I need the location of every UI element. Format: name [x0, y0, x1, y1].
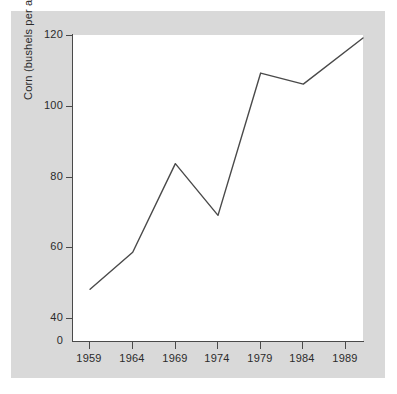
x-tick-1979 — [260, 342, 261, 349]
y-tick-label-40: 40 — [3, 311, 63, 323]
y-tick-label-80: 80 — [3, 170, 63, 182]
y-tick-label-0: 0 — [3, 334, 63, 346]
y-tick-60 — [66, 247, 73, 248]
x-tick-1989 — [345, 342, 346, 349]
y-tick-100 — [66, 106, 73, 107]
y-axis-title: Corn (bushels per acre) — [22, 0, 34, 100]
x-axis-line — [72, 341, 364, 342]
x-tick-1969 — [175, 342, 176, 349]
x-tick-1974 — [217, 342, 218, 349]
x-tick-label-1969: 1969 — [153, 352, 197, 364]
x-tick-label-1959: 1959 — [67, 352, 111, 364]
y-axis-line — [72, 34, 73, 342]
x-tick-label-1979: 1979 — [238, 352, 282, 364]
y-tick-80 — [66, 177, 73, 178]
x-tick-label-1964: 1964 — [110, 352, 154, 364]
x-tick-1984 — [302, 342, 303, 349]
x-tick-label-1989: 1989 — [323, 352, 367, 364]
x-tick-label-1984: 1984 — [280, 352, 324, 364]
x-tick-label-1974: 1974 — [195, 352, 239, 364]
y-tick-label-60: 60 — [3, 240, 63, 252]
y-tick-120 — [66, 35, 73, 36]
x-tick-1964 — [132, 342, 133, 349]
chart-screenshot: 120 100 80 60 40 0 1959 1964 1969 1974 1… — [0, 0, 397, 394]
x-tick-1959 — [89, 342, 90, 349]
plot-area — [73, 35, 363, 341]
y-tick-label-100: 100 — [3, 99, 63, 111]
y-tick-40 — [66, 318, 73, 319]
